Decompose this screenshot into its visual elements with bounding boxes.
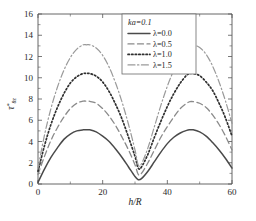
svg-text:h/R: h/R	[128, 197, 141, 207]
legend-label: λ=1.5	[153, 61, 172, 70]
y-tick-label: 4	[29, 137, 34, 147]
y-axis-title-sub: θz	[11, 97, 17, 103]
x-tick-label: 60	[228, 187, 238, 197]
chart-legend: ka=0.1 λ=0.0λ=0.5λ=1.0λ=1.5	[122, 14, 196, 74]
x-axis-title-r: R	[135, 197, 142, 207]
y-tick-label: 16	[24, 9, 34, 19]
y-tick-label: 2	[29, 158, 34, 168]
legend-label: λ=1.0	[153, 50, 172, 59]
x-tick-label: 40	[163, 187, 173, 197]
y-tick-label: 14	[24, 30, 34, 40]
y-tick-label: 6	[29, 115, 34, 125]
y-tick-label: 10	[24, 73, 34, 83]
legend-label: λ=0.5	[153, 40, 172, 49]
y-tick-label: 12	[24, 52, 33, 62]
legend-label: λ=0.0	[153, 29, 172, 38]
x-axis-title: h/R	[128, 197, 141, 207]
y-tick-label: 8	[29, 94, 34, 104]
chart-figure: 0246810121416 0204060 τ*θz h/R ka=0.1 λ=…	[0, 0, 256, 221]
chart-svg: 0246810121416 0204060 τ*θz h/R ka=0.1 λ=…	[0, 0, 256, 221]
y-tick-label: 0	[29, 179, 34, 189]
x-tick-label: 20	[98, 187, 108, 197]
legend-title: ka=0.1	[128, 18, 152, 27]
x-tick-label: 0	[36, 187, 41, 197]
